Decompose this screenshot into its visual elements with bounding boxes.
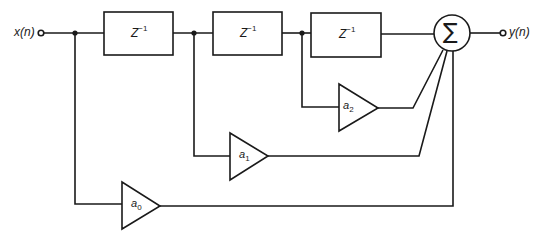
delay-label-1: Z−1 (131, 25, 147, 40)
fir-filter-diagram: x(n) y(n) Z−1 Z−1 Z−1 a2 a1 a0 ∑ (0, 0, 546, 240)
wire-tap-a0 (75, 33, 122, 204)
gain-label-a2: a2 (343, 99, 354, 114)
delay-label-2: Z−1 (240, 25, 256, 40)
input-port (38, 30, 44, 36)
input-label: x(n) (14, 25, 35, 39)
output-label: y(n) (509, 25, 530, 39)
gain-label-a0: a0 (131, 197, 142, 212)
sigma-symbol: ∑ (443, 21, 458, 43)
wire-a2-sum (378, 50, 443, 108)
diagram-wires (0, 0, 546, 240)
output-port (500, 30, 506, 36)
wire-a0-sum (160, 51, 453, 206)
gain-label-a1: a1 (239, 148, 250, 163)
delay-label-3: Z−1 (339, 26, 355, 41)
